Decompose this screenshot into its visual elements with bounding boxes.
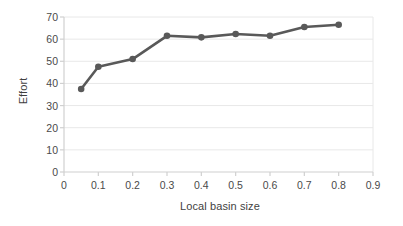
x-tick-label: 0.1 — [91, 180, 106, 191]
x-tick-label: 0.9 — [366, 180, 381, 191]
data-point-marker — [301, 24, 308, 31]
data-point-marker — [129, 56, 136, 63]
x-tick-label: 0.7 — [297, 180, 312, 191]
data-point-marker — [78, 86, 85, 93]
data-point-marker — [95, 64, 102, 71]
x-tick-label: 0.2 — [125, 180, 140, 191]
data-point-marker — [335, 21, 342, 28]
data-point-marker — [232, 31, 239, 38]
chart-container: Effort 010203040506070 00.10.20.30.40.50… — [0, 0, 403, 226]
x-tick-label: 0.3 — [160, 180, 175, 191]
x-tick-label: 0.4 — [194, 180, 209, 191]
x-tick-label: 0.6 — [263, 180, 278, 191]
plot-background — [64, 17, 373, 172]
x-tick-label: 0.8 — [331, 180, 346, 191]
x-axis-title: Local basin size — [60, 200, 380, 212]
data-point-marker — [267, 33, 274, 40]
x-axis-tick-labels: 00.10.20.30.40.50.60.70.80.9 — [0, 176, 403, 194]
x-tick-label: 0.5 — [228, 180, 243, 191]
data-point-marker — [164, 33, 171, 40]
data-point-marker — [198, 34, 205, 41]
x-tick-label: 0 — [61, 180, 67, 191]
